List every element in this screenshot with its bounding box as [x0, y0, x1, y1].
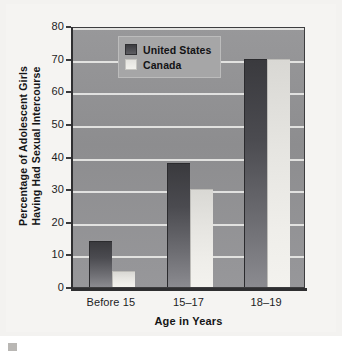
x-tick-label-0: Before 15	[71, 296, 151, 308]
x-axis-line	[71, 288, 307, 291]
x-axis-title: Age in Years	[72, 315, 305, 327]
y-tick-mark-0	[66, 287, 71, 289]
bar-us-0	[89, 241, 112, 287]
legend-label-canada: Canada	[143, 59, 182, 71]
y-axis-line	[71, 27, 73, 289]
legend-swatch-united-states	[125, 44, 137, 55]
bar-ca-1	[190, 189, 213, 287]
y-axis-title-line-1: Percentage of Adolescent Girls	[17, 31, 30, 261]
y-tick-mark-50	[66, 124, 71, 126]
y-tick-mark-80	[66, 26, 71, 28]
x-tick-label-1: 15–17	[149, 296, 229, 308]
y-tick-mark-60	[66, 91, 71, 93]
legend-item-canada: Canada	[125, 57, 211, 72]
page-bottom-mark	[8, 343, 17, 351]
legend-swatch-canada	[125, 59, 137, 70]
bar-ca-0	[112, 271, 135, 287]
bar-us-1	[167, 163, 190, 287]
figure-container: United States Canada 01020304050607080 B…	[0, 0, 342, 353]
legend-label-united-states: United States	[143, 44, 211, 56]
bar-ca-2	[267, 59, 290, 287]
page-bottom-strip	[0, 336, 342, 353]
y-tick-mark-20	[66, 222, 71, 224]
legend-item-united-states: United States	[125, 42, 211, 57]
y-axis-title: Percentage of Adolescent Girls Having Ha…	[17, 31, 43, 261]
gridline-80	[73, 28, 304, 30]
y-tick-mark-40	[66, 157, 71, 159]
y-tick-mark-30	[66, 189, 71, 191]
plot-area: United States Canada	[72, 27, 305, 288]
y-tick-mark-70	[66, 59, 71, 61]
y-tick-mark-10	[66, 254, 71, 256]
bar-us-2	[244, 59, 267, 287]
chart-legend: United States Canada	[118, 36, 221, 78]
x-tick-label-2: 18–19	[226, 296, 306, 308]
y-tick-label-0: 0	[38, 281, 64, 293]
y-axis-title-line-2: Having Had Sexual Intercourse	[30, 31, 43, 261]
